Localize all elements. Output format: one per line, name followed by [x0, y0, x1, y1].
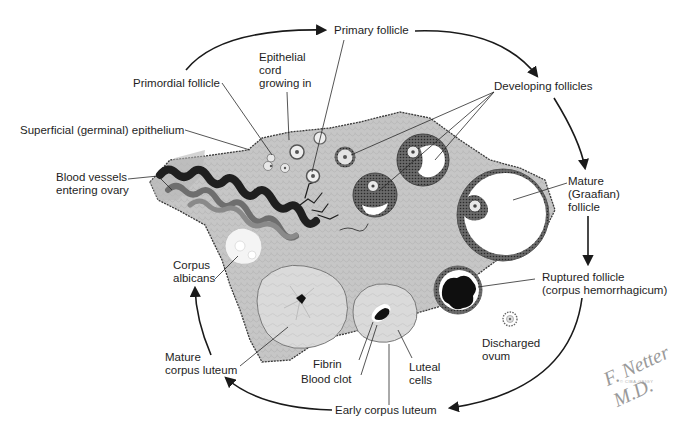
early-corpus-luteum-structure: [353, 284, 417, 342]
label-luteal-cells: Luteal cells: [409, 361, 440, 387]
label-corpus-albicans: Corpus albicans: [173, 259, 215, 285]
ovarian-cycle-diagram: Primary follicle Epithelial cord growing…: [0, 0, 686, 440]
graafian-follicle-structure: [457, 169, 549, 261]
label-ruptured-follicle: Ruptured follicle (corpus hemorrhagicum): [542, 271, 667, 297]
label-primordial-follicle: Primordial follicle: [133, 77, 220, 90]
label-primary-follicle: Primary follicle: [334, 24, 409, 37]
ruptured-follicle-structure: [434, 266, 482, 314]
label-mature-corpus-luteum: Mature corpus luteum: [165, 351, 237, 377]
artist-signature: F. Netter M.D. © CIBA-GEIGY: [600, 348, 670, 388]
label-epithelial-cord: Epithelial cord growing in: [259, 51, 311, 90]
signature-copyright: © CIBA-GEIGY: [620, 379, 653, 384]
label-fibrin: Fibrin: [313, 358, 342, 371]
label-discharged-ovum: Discharged ovum: [482, 337, 540, 363]
label-early-corpus-luteum: Early corpus luteum: [335, 404, 437, 417]
label-mature-graafian-follicle: Mature (Graafian) follicle: [568, 175, 620, 214]
label-blood-clot: Blood clot: [301, 373, 352, 386]
label-superficial-epithelium: Superficial (germinal) epithelium: [20, 124, 184, 137]
mature-corpus-luteum-structure: [257, 265, 348, 348]
label-blood-vessels: Blood vessels entering ovary: [56, 171, 129, 197]
corpus-albicans-structure: [225, 228, 262, 264]
discharged-ovum-structure: [503, 312, 517, 326]
label-developing-follicles: Developing follicles: [494, 80, 592, 93]
